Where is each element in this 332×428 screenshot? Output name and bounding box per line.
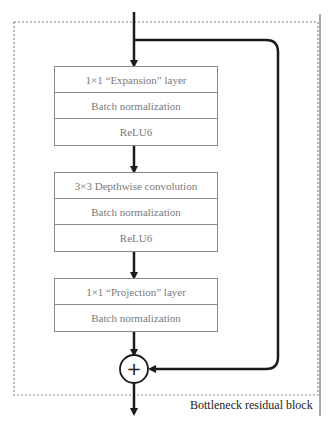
expansion-layer: 1×1 “Expansion” layer <box>55 67 217 93</box>
depthwise-block: 3×3 Depthwise convolution Batch normaliz… <box>54 172 218 252</box>
plus-icon: + <box>120 355 148 383</box>
relu6-1: ReLU6 <box>55 119 217 145</box>
projection-layer: 1×1 “Projection” layer <box>55 279 217 305</box>
batch-norm-1: Batch normalization <box>55 93 217 119</box>
depthwise-conv: 3×3 Depthwise convolution <box>55 173 217 199</box>
block-title: Bottleneck residual block <box>190 398 313 413</box>
batch-norm-2: Batch normalization <box>55 199 217 225</box>
projection-block: 1×1 “Projection” layer Batch normalizati… <box>54 278 218 332</box>
batch-norm-3: Batch normalization <box>55 305 217 331</box>
relu6-2: ReLU6 <box>55 225 217 251</box>
expansion-block: 1×1 “Expansion” layer Batch normalizatio… <box>54 66 218 146</box>
